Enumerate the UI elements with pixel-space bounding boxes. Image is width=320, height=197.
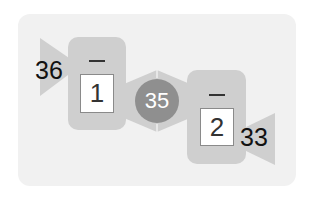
step2-operand: 2 bbox=[210, 112, 224, 143]
step1-minus-icon bbox=[89, 60, 105, 62]
step1-operand-box[interactable]: 1 bbox=[80, 74, 114, 113]
end-value: 33 bbox=[240, 125, 268, 150]
step2-minus-icon bbox=[209, 94, 225, 96]
middle-value-circle: 35 bbox=[135, 79, 179, 123]
step1-operand: 1 bbox=[90, 78, 104, 109]
start-value: 36 bbox=[35, 58, 63, 83]
middle-value: 35 bbox=[145, 88, 169, 114]
step2-operand-box[interactable]: 2 bbox=[200, 108, 234, 146]
